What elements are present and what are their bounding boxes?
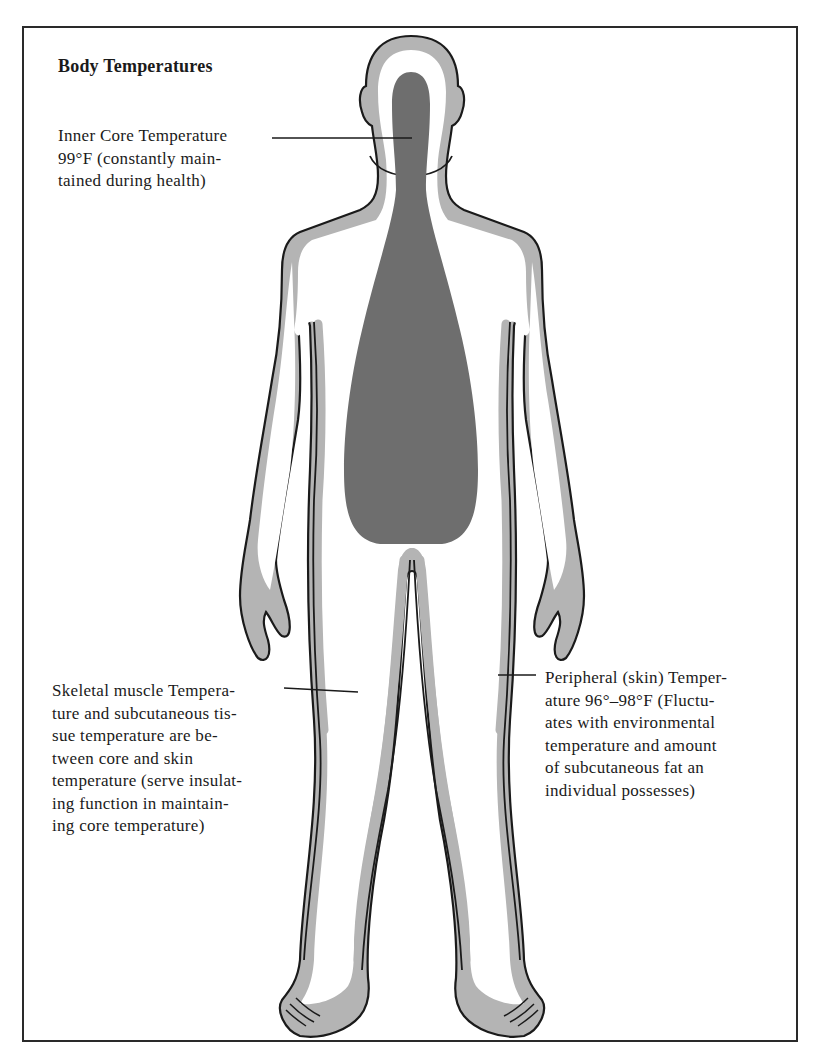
human-body-figure	[0, 0, 814, 1061]
